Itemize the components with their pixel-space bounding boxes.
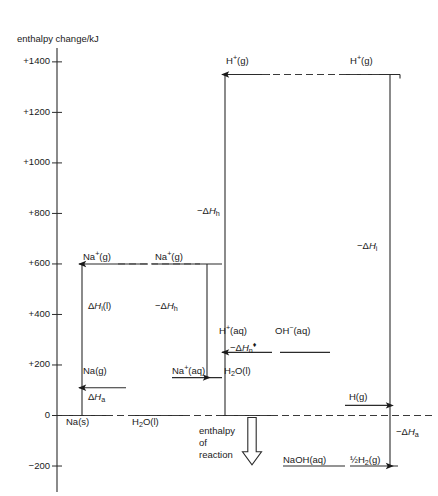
delta-h-label-ionisation-h: −ΔHi xyxy=(357,240,377,251)
axis-tick-600: +600 xyxy=(2,257,50,268)
delta-h-label-hydration-h: −ΔHh xyxy=(197,205,220,216)
level-label-h-plus-g-right: H+(g) xyxy=(350,56,373,67)
axis-tick-200: +200 xyxy=(2,358,50,369)
level-label-half-h2-g: ½H2(g) xyxy=(350,455,380,466)
level-label-na-plus-g-right: Na+(g) xyxy=(155,252,183,263)
axis-tick-1400: +1400 xyxy=(2,55,50,66)
level-label-h2o-l-left: H2O(l) xyxy=(132,417,159,428)
level-label-oh-minus-aq: OH−(aq) xyxy=(275,326,310,337)
axis-tick-1200: +1200 xyxy=(2,106,50,117)
axis-title: enthalpy change/kJ xyxy=(17,33,99,44)
level-label-na-plus-aq: Na+(aq) xyxy=(172,366,205,377)
level-label-na-s: Na(s) xyxy=(66,417,89,428)
level-label-h2o-l-mid: H2O(l) xyxy=(224,366,251,377)
level-label-na-plus-g-left: Na+(g) xyxy=(83,252,111,263)
axis-tick-1000: +1000 xyxy=(2,156,50,167)
axis-tick-800: +800 xyxy=(2,207,50,218)
axis-tick-0: 0 xyxy=(2,409,50,420)
level-label-na-g: Na(g) xyxy=(83,366,107,377)
delta-h-label-hydration-na: −ΔHh xyxy=(155,300,178,311)
axis-tick-400: +400 xyxy=(2,308,50,319)
level-label-h-g: H(g) xyxy=(349,392,367,403)
enthalpy-cycle-diagram: enthalpy change/kJ +1400+1200+1000+800+6… xyxy=(0,0,438,496)
level-label-naoh-aq: NaOH(aq) xyxy=(283,455,326,466)
enthalpy-of-reaction-arrow xyxy=(243,418,262,465)
level-label-h-plus-g-left: H+(g) xyxy=(226,56,249,67)
delta-h-label-atomisation-na: ΔHa xyxy=(88,391,105,402)
delta-h-label-neutralisation: −ΔHn♦ xyxy=(230,342,256,353)
enthalpy-of-reaction-label: enthalpyofreaction xyxy=(199,425,235,461)
level-label-h-plus-aq: H+(aq) xyxy=(219,326,247,337)
delta-h-label-ionisation-na: ΔHi(l) xyxy=(88,300,111,311)
axis-tick-minus200: −200 xyxy=(2,460,50,471)
delta-h-label-atomisation-h: −ΔHa xyxy=(396,426,419,437)
